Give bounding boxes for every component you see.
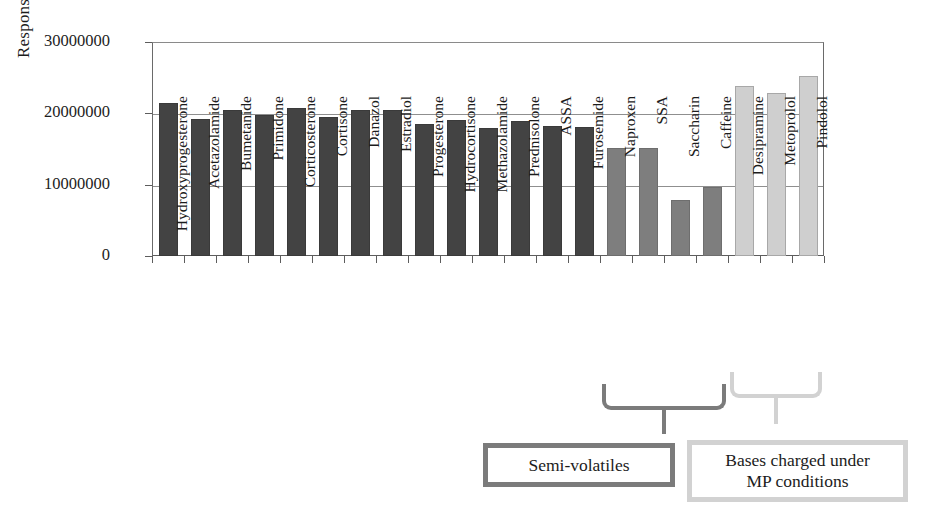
- y-tick-mark: [145, 113, 152, 114]
- x-axis-label: Furosemide: [590, 96, 606, 266]
- x-axis-label: Estradiol: [398, 96, 414, 266]
- y-tick-mark: [145, 42, 152, 43]
- bracket-bases-charged: [730, 372, 822, 426]
- x-axis-label: Corticosterone: [302, 96, 318, 266]
- x-axis-label: ASSA: [558, 96, 574, 266]
- x-axis-label: Naproxen: [622, 96, 638, 266]
- y-tick-label: 10000000: [0, 174, 110, 194]
- callout-bases-charged: Bases charged under MP conditions: [687, 440, 908, 502]
- x-axis-label: Cortisone: [334, 96, 350, 266]
- callout-bases-line-1: Bases charged under: [725, 450, 870, 470]
- x-axis-label: Primidone: [270, 96, 286, 266]
- x-axis-label: Saccharin: [686, 96, 702, 266]
- x-tick-mark: [152, 256, 153, 263]
- bracket-semi-volatiles: [602, 384, 726, 436]
- x-axis-label: Pindolol: [814, 96, 830, 266]
- x-axis-label: Methazolamide: [494, 96, 510, 266]
- x-axis-label: Danazol: [366, 96, 382, 266]
- callout-semi-volatiles-label: Semi-volatiles: [528, 455, 629, 476]
- callout-bases-charged-label: Bases charged under MP conditions: [725, 450, 870, 492]
- x-axis-label: Prednisolone: [526, 96, 542, 266]
- y-tick-label: 20000000: [0, 102, 110, 122]
- x-axis-label: Metoprolol: [782, 96, 798, 266]
- x-axis-label: Hydroxyprogesterone: [174, 96, 190, 266]
- x-axis-label: Progesterone: [430, 96, 446, 266]
- y-tick-mark: [145, 256, 152, 257]
- x-axis-label: Desipramine: [750, 96, 766, 266]
- x-axis-label: Bumetanide: [238, 96, 254, 266]
- chart-figure: Response Factor 010000000200000003000000…: [0, 0, 948, 532]
- x-axis-label: Hydrocortisone: [462, 96, 478, 266]
- callout-semi-volatiles: Semi-volatiles: [483, 443, 675, 487]
- y-tick-label: 0: [0, 245, 110, 265]
- x-axis-label: Acetazolamide: [206, 96, 222, 266]
- x-axis-label: Caffeine: [718, 96, 734, 266]
- y-tick-mark: [145, 185, 152, 186]
- callout-bases-line-2: MP conditions: [747, 471, 849, 491]
- x-axis-label: SSA: [654, 96, 670, 266]
- y-tick-label: 30000000: [0, 31, 110, 51]
